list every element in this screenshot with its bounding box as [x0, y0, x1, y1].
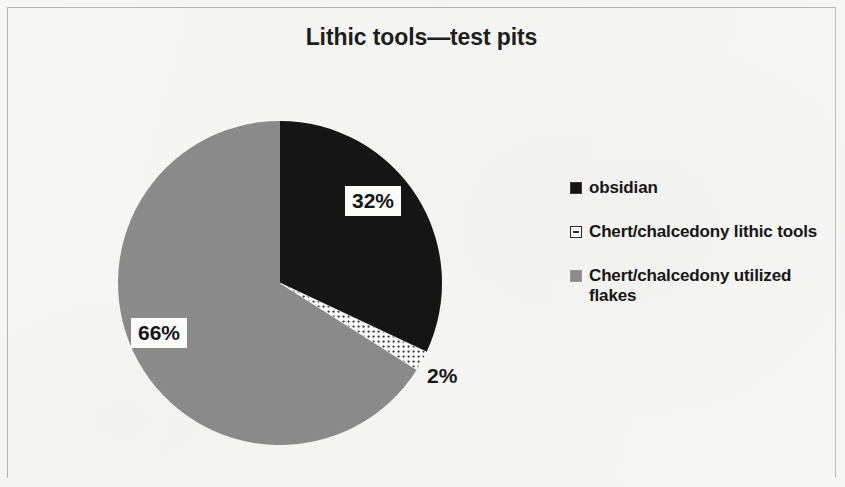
legend-item-obsidian[interactable]: obsidian	[570, 178, 832, 198]
legend-item-label: obsidian	[589, 178, 658, 198]
page-title: Lithic tools—test pits	[0, 24, 845, 51]
pie-label-utilized-flakes: 66%	[131, 318, 187, 348]
legend-item-utilized-flakes[interactable]: Chert/chalcedony utilized flakes	[570, 266, 832, 306]
pie-label-lithic-tools: 2%	[427, 365, 457, 386]
chart-legend: obsidian Chert/chalcedony lithic tools C…	[570, 178, 832, 330]
legend-item-lithic-tools[interactable]: Chert/chalcedony lithic tools	[570, 222, 832, 242]
pie-chart	[117, 120, 443, 446]
pie-svg	[117, 120, 443, 446]
gray-square-icon	[570, 270, 582, 282]
pie-label-obsidian: 32%	[345, 186, 401, 216]
legend-item-label: Chert/chalcedony utilized flakes	[589, 266, 832, 306]
legend-item-label: Chert/chalcedony lithic tools	[589, 222, 817, 242]
dotted-square-icon	[570, 226, 582, 238]
black-square-icon	[570, 182, 582, 194]
